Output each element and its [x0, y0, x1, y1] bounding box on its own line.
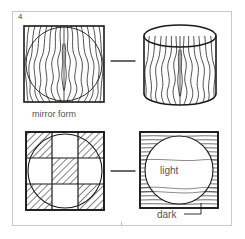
- panel-mirror-form-square: [22, 24, 106, 104]
- cell-center: [52, 158, 78, 184]
- mirror-form-square-svg: [22, 24, 106, 104]
- figure-number: 4: [18, 12, 22, 22]
- connector-bottom: [110, 168, 136, 174]
- square-outline: [140, 132, 218, 208]
- label-light: light: [160, 165, 178, 176]
- frame-bottom-tick: [121, 222, 122, 225]
- label-dark: dark: [157, 209, 176, 220]
- checkerboard-svg: [24, 130, 106, 212]
- connector-top-dash: [110, 58, 136, 64]
- panel-checkerboard-square: [24, 130, 106, 212]
- connector-top: [110, 58, 136, 64]
- panel-mirror-form-cylinder: [140, 22, 220, 112]
- light-dark-svg: [138, 130, 224, 214]
- cylinder-svg: [140, 22, 220, 112]
- panel-light-dark-square: [138, 130, 224, 214]
- cylinder-top-ellipse: [144, 25, 216, 47]
- figure-root: 4: [0, 0, 245, 239]
- connector-bottom-dash: [110, 168, 136, 174]
- caption-mirror-form: mirror form: [32, 109, 76, 120]
